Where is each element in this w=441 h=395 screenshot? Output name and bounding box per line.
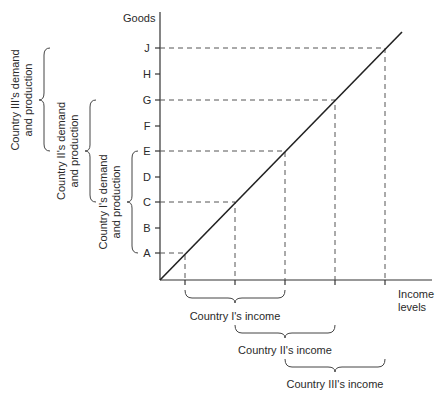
brace-country3	[39, 48, 50, 151]
income-goods-line	[160, 32, 402, 280]
country2-demand-line2: and production	[68, 115, 80, 188]
left-braces	[39, 48, 138, 253]
tick-label-b: B	[143, 222, 150, 234]
country1-demand-line1: Country I's demand	[97, 154, 109, 249]
country2-demand-line1: Country II's demand	[55, 102, 67, 200]
country3-income-label: Country III's income	[287, 378, 384, 390]
country2-income-label: Country II's income	[238, 344, 332, 356]
country1-income-label: Country I's income	[190, 310, 281, 322]
brace-income-country2	[235, 325, 335, 338]
y-ticks	[155, 48, 160, 253]
tick-label-e: E	[143, 145, 150, 157]
tick-label-c: C	[143, 196, 151, 208]
x-ticks	[185, 280, 385, 285]
x-axis-label-line1: Income	[398, 288, 434, 300]
tick-label-d: D	[143, 171, 151, 183]
brace-country1	[127, 151, 138, 253]
brace-income-country1	[185, 290, 285, 303]
brace-income-country3	[285, 359, 385, 372]
country3-demand-line2: and production	[22, 64, 34, 137]
bottom-braces	[185, 290, 385, 372]
income-goods-diagram: A B C D E F G H J Goods Income levels Co…	[0, 0, 441, 395]
tick-label-a: A	[143, 247, 151, 259]
brace-country2	[85, 100, 96, 202]
y-axis-label: Goods	[123, 12, 156, 24]
tick-label-g: G	[143, 94, 152, 106]
country1-demand-line2: and production	[110, 166, 122, 239]
country3-demand-line1: Country III's demand	[9, 49, 21, 150]
tick-label-j: J	[144, 42, 150, 54]
tick-label-h: H	[143, 68, 151, 80]
x-axis-label-line2: levels	[398, 301, 427, 313]
tick-label-f: F	[144, 120, 151, 132]
